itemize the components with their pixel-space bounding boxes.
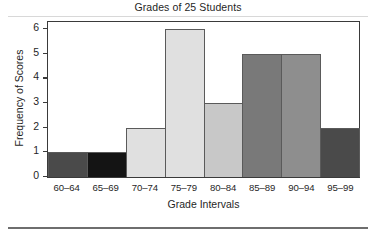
bar-65–69 [87, 152, 127, 177]
bar-85–89 [242, 54, 282, 177]
bar-70–74 [126, 128, 166, 177]
x-tick-label: 60–64 [47, 182, 86, 193]
x-tick-label: 85–89 [243, 182, 282, 193]
bar-75–79 [165, 29, 205, 177]
x-tick-label: 95–99 [321, 182, 360, 193]
y-tick-label: 4 [33, 70, 39, 83]
y-tick-label: 3 [33, 95, 39, 108]
page-rule-top [8, 16, 368, 17]
y-tick-label: 6 [33, 21, 39, 34]
bar-60–64 [48, 152, 88, 177]
bar-80–84 [204, 103, 244, 177]
plot-area: 0123456 [47, 21, 360, 178]
x-axis-title: Grade Intervals [47, 198, 360, 210]
bar-95–99 [320, 128, 360, 177]
y-tick-label: 0 [33, 169, 39, 182]
y-tick-label: 1 [33, 144, 39, 157]
chart-title: Grades of 25 Students [0, 1, 376, 13]
x-tick-label: 75–79 [164, 182, 203, 193]
y-tick-label: 2 [33, 120, 39, 133]
x-tick-label: 65–69 [86, 182, 125, 193]
histogram-figure: Grades of 25 Students 0123456 60–6465–69… [0, 0, 376, 235]
x-tick-label: 80–84 [204, 182, 243, 193]
x-tick-label: 90–94 [282, 182, 321, 193]
bars-container [48, 22, 359, 177]
y-tick-label: 5 [33, 46, 39, 59]
x-tick-label: 70–74 [125, 182, 164, 193]
page-rule-bottom [8, 227, 368, 229]
bar-90–94 [281, 54, 321, 177]
x-axis-tick-labels: 60–6465–6970–7475–7980–8485–8990–9495–99 [47, 182, 360, 193]
y-axis-title: Frequency of Scores [13, 23, 25, 173]
